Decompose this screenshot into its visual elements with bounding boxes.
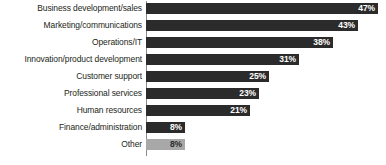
category-label: Other bbox=[9, 139, 142, 150]
bar: 25% bbox=[146, 71, 269, 82]
category-label-column: Business development/salesMarketing/comm… bbox=[0, 0, 142, 165]
bar-value-label: 21% bbox=[230, 105, 247, 116]
bar: 31% bbox=[146, 54, 299, 65]
bar-row: 8% bbox=[146, 122, 386, 133]
category-label: Finance/administration bbox=[9, 122, 142, 133]
bar-value-label: 8% bbox=[170, 122, 182, 133]
bar-value-label: 38% bbox=[313, 37, 330, 48]
category-label: Operations/IT bbox=[9, 37, 142, 48]
bar: 43% bbox=[146, 20, 358, 31]
bar-value-label: 47% bbox=[358, 3, 375, 14]
category-label: Business development/sales bbox=[9, 3, 142, 14]
category-label: Innovation/product development bbox=[9, 54, 142, 65]
bar-chart: Business development/salesMarketing/comm… bbox=[0, 0, 386, 165]
category-label: Customer support bbox=[9, 71, 142, 82]
bar-value-label: 25% bbox=[249, 71, 266, 82]
bar: 8% bbox=[146, 122, 185, 133]
bar-row: 47% bbox=[146, 3, 386, 14]
bar-row: 23% bbox=[146, 88, 386, 99]
bar: 47% bbox=[146, 3, 378, 14]
bar-value-label: 43% bbox=[338, 20, 355, 31]
bar-value-label: 31% bbox=[279, 54, 296, 65]
category-label: Human resources bbox=[9, 105, 142, 116]
plot-area: 47%43%38%31%25%23%21%8%8% bbox=[146, 0, 386, 165]
bar: 8% bbox=[146, 139, 185, 150]
category-label: Marketing/communications bbox=[9, 20, 142, 31]
bar-row: 31% bbox=[146, 54, 386, 65]
bar: 38% bbox=[146, 37, 333, 48]
bar: 23% bbox=[146, 88, 259, 99]
bar-row: 8% bbox=[146, 139, 386, 150]
bar-value-label: 23% bbox=[239, 88, 256, 99]
category-label: Professional services bbox=[9, 88, 142, 99]
bar: 21% bbox=[146, 105, 250, 116]
bar-row: 43% bbox=[146, 20, 386, 31]
bar-value-label: 8% bbox=[170, 139, 182, 150]
bar-row: 25% bbox=[146, 71, 386, 82]
bar-row: 38% bbox=[146, 37, 386, 48]
bar-row: 21% bbox=[146, 105, 386, 116]
